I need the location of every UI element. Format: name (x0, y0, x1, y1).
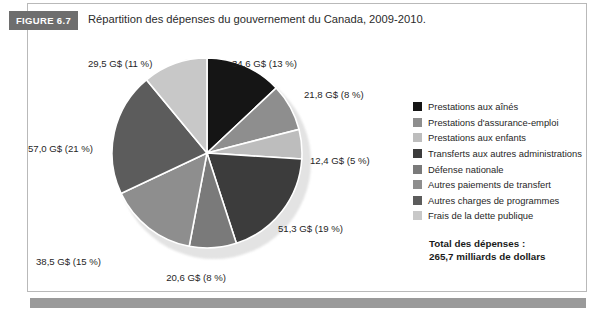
legend-item-label: Autres charges de programmes (428, 195, 559, 206)
bottom-rule (30, 298, 586, 308)
pie-slice-label: 29,5 G$ (11 %) (88, 58, 152, 69)
legend-color-swatch (413, 180, 422, 189)
legend-color-swatch (413, 211, 422, 220)
legend-item-label: Autres paiements de transfert (428, 179, 551, 190)
legend-item-label: Transferts aux autres administrations (428, 148, 582, 159)
total-value: 265,7 milliards de dollars (429, 251, 546, 264)
pie-svg (110, 56, 310, 268)
legend-color-swatch (413, 149, 422, 158)
figure-card: FIGURE 6.7 Répartition des dépenses du g… (0, 0, 590, 315)
pie-slice-label: 51,3 G$ (19 %) (278, 223, 343, 234)
pie-slice-label: 21,8 G$ (8 %) (304, 89, 364, 100)
legend-color-swatch (413, 102, 422, 111)
legend-item: Autres charges de programmes (413, 193, 582, 209)
pie-slice-label: 57,0 G$ (21 %) (28, 143, 93, 154)
legend-color-swatch (413, 118, 422, 127)
pie-chart (110, 56, 310, 274)
legend-item-label: Prestations d'assurance-emploi (428, 117, 559, 128)
total-expenses-block: Total des dépenses : 265,7 milliards de … (429, 238, 546, 263)
legend-item: Prestations d'assurance-emploi (413, 115, 582, 131)
legend-color-swatch (413, 165, 422, 174)
legend-color-swatch (413, 196, 422, 205)
legend-item-label: Frais de la dette publique (428, 210, 533, 221)
pie-slice-label: 34,6 G$ (13 %) (232, 58, 297, 69)
legend-item: Prestations aux enfants (413, 130, 582, 146)
legend-item: Frais de la dette publique (413, 208, 582, 224)
legend-item-label: Prestations aux enfants (428, 132, 526, 143)
pie-slice-label: 38,5 G$ (15 %) (36, 256, 101, 267)
pie-slice-label: 20,6 G$ (8 %) (166, 272, 226, 283)
figure-title: Répartition des dépenses du gouvernement… (88, 13, 426, 25)
legend-item: Prestations aux aînés (413, 99, 582, 115)
legend-item-label: Défense nationale (428, 164, 504, 175)
chart-legend: Prestations aux aînésPrestations d'assur… (413, 99, 582, 224)
pie-slice-label: 12,4 G$ (5 %) (310, 155, 370, 166)
legend-item: Défense nationale (413, 161, 582, 177)
legend-item: Autres paiements de transfert (413, 177, 582, 193)
legend-item-label: Prestations aux aînés (428, 101, 518, 112)
legend-item: Transferts aux autres administrations (413, 146, 582, 162)
figure-number-badge: FIGURE 6.7 (9, 11, 78, 30)
legend-color-swatch (413, 133, 422, 142)
pie-slices (112, 58, 302, 248)
total-label: Total des dépenses : (429, 238, 546, 251)
